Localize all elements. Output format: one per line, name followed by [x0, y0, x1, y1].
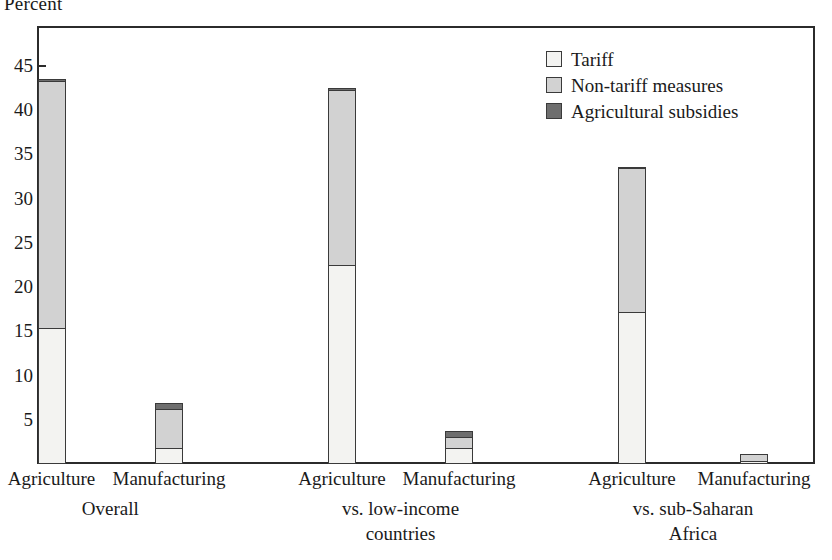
x-axis-group-label-2: vs. low-incomecountries — [342, 496, 459, 546]
bar-2 — [155, 400, 183, 464]
bar-3 — [328, 85, 356, 464]
x-axis-category-label-3: Agriculture — [298, 468, 386, 490]
legend-swatch-icon — [546, 51, 562, 67]
legend-label: Tariff — [571, 50, 614, 69]
x-axis-group-label-line: Overall — [82, 496, 139, 521]
x-axis-group-label-3: vs. sub-SaharanAfrica — [633, 496, 753, 546]
bar-segment-tariff — [618, 312, 646, 464]
bar-5 — [618, 164, 646, 464]
x-axis-category-label-2: Manufacturing — [113, 468, 226, 490]
legend-label: Agricultural subsidies — [571, 102, 738, 121]
bar-segment-tariff — [38, 328, 66, 464]
bar-segment-tariff — [740, 461, 768, 464]
x-axis-group-label-line: vs. sub-Saharan — [633, 496, 753, 521]
bar-4 — [445, 428, 473, 464]
x-axis-group-label-line: Africa — [633, 521, 753, 546]
bar-1 — [38, 76, 66, 464]
x-axis-group-label-1: Overall — [82, 496, 139, 521]
bar-6 — [740, 451, 768, 464]
bar-segment-tariff — [155, 448, 183, 464]
bar-segment-tariff — [328, 265, 356, 464]
bar-segment-non-tariff-measures — [155, 409, 183, 450]
legend-item-tariff: Tariff — [546, 46, 738, 72]
bar-segment-non-tariff-measures — [618, 168, 646, 313]
x-axis-category-label-6: Manufacturing — [698, 468, 811, 490]
x-axis-category-label-1: Agriculture — [8, 468, 96, 490]
x-axis-category-label-4: Manufacturing — [403, 468, 516, 490]
legend-item-non-tariff-measures: Non-tariff measures — [546, 72, 738, 98]
legend-label: Non-tariff measures — [571, 76, 723, 95]
legend-swatch-icon — [546, 103, 562, 119]
bar-segment-tariff — [445, 448, 473, 464]
x-axis-group-label-line: countries — [342, 521, 459, 546]
legend-swatch-icon — [546, 77, 562, 93]
legend-item-agricultural-subsidies: Agricultural subsidies — [546, 98, 738, 124]
bar-segment-non-tariff-measures — [38, 81, 66, 330]
bar-segment-non-tariff-measures — [328, 90, 356, 267]
x-axis-category-label-5: Agriculture — [588, 468, 676, 490]
legend: TariffNon-tariff measuresAgricultural su… — [546, 46, 738, 124]
x-axis-group-label-line: vs. low-income — [342, 496, 459, 521]
x-axis-labels: AgricultureManufacturingAgricultureManuf… — [0, 468, 832, 560]
